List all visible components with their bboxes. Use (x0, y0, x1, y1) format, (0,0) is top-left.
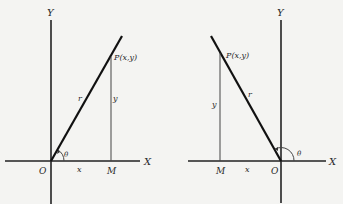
figure-second-quadrant: Y X O x M P(x,y) r y θ (188, 7, 337, 203)
angle-label: θ (297, 150, 302, 158)
y-axis-label: Y (277, 7, 285, 18)
radius-label: r (248, 90, 253, 99)
polar-coordinates-diagram: Y X O x M P(x,y) r y θ Y X O x M P(x,y) … (0, 0, 343, 204)
origin-label: O (271, 166, 279, 176)
figure-first-quadrant: Y X O x M P(x,y) r y θ (5, 7, 152, 204)
point-label: P(x,y) (225, 51, 249, 60)
x-axis-label: X (328, 156, 337, 167)
foot-label: M (215, 166, 226, 176)
origin-label: O (39, 166, 47, 176)
abscissa-label: x (77, 165, 82, 174)
point-label: P(x,y) (113, 53, 137, 62)
abscissa-label: x (245, 165, 250, 174)
y-axis-label: Y (47, 7, 55, 18)
angle-label: θ (64, 151, 69, 159)
ordinate-label: y (211, 100, 217, 109)
foot-label: M (106, 166, 117, 176)
radius-label: r (78, 94, 83, 103)
x-axis-label: X (143, 156, 152, 167)
ordinate-label: y (112, 94, 118, 103)
